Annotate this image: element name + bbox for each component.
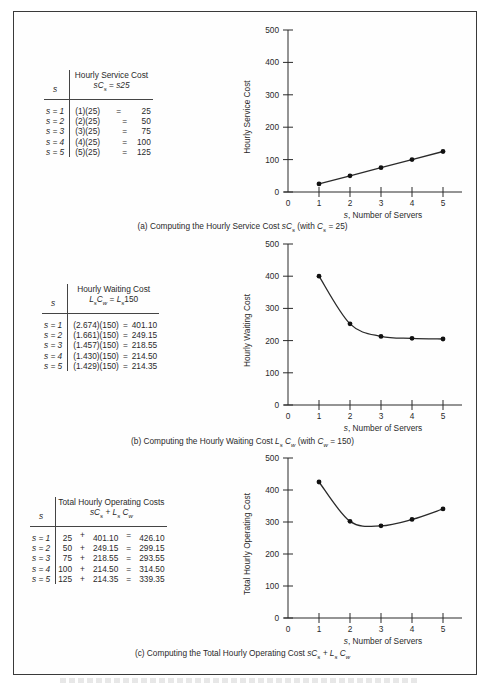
table-row: s = 250+249.15=299.15 [30, 543, 167, 553]
col-s-header: s [44, 70, 70, 100]
caption-a: (a) Computing the Hourly Service Cost sC… [0, 221, 485, 233]
table-row: s = 1(2.674)(150)=401.10 [42, 314, 159, 331]
table-row: s = 5(5)(25)=125 [44, 147, 153, 157]
cut-off-text-line [60, 678, 420, 683]
caption-b: (b) Computing the Hourly Waiting Cost Ls… [0, 436, 485, 448]
col-s-header: s [42, 284, 68, 314]
table-row: s = 4(4)(25)=100 [44, 137, 153, 147]
waiting-cost-table: s Hourly Waiting Cost LsCw = Ls150 s = 1… [42, 284, 159, 371]
total-cost-header: Total Hourly Operating Costs sCs + Ls Cw [56, 497, 167, 527]
table-row: s = 3(1.457)(150)=218.55 [42, 340, 159, 350]
table-row: s = 2(1.661)(150)=249.15 [42, 330, 159, 340]
table-row: s = 5125+214.35=339.35 [30, 574, 167, 584]
table-row: s = 2(2)(25)=50 [44, 116, 153, 126]
waiting-cost-header: Hourly Waiting Cost LsCw = Ls150 [68, 284, 159, 314]
total-cost-table: s Total Hourly Operating Costs sCs + Ls … [30, 497, 167, 584]
service-cost-header: Hourly Service Cost sCs = s25 [70, 70, 153, 100]
table-row: s = 1(1)(25)=25 [44, 100, 153, 117]
table-row: s = 375+218.55=293.55 [30, 553, 167, 563]
table-row: s = 5(1.429)(150)=214.35 [42, 361, 159, 371]
table-row: s = 125+401.10=426.10 [30, 527, 167, 544]
service-cost-table: s Hourly Service Cost sCs = s25 s = 1(1)… [44, 70, 153, 157]
caption-c: (c) Computing the Total Hourly Operating… [0, 648, 485, 660]
table-row: s = 4100+214.50=314.50 [30, 564, 167, 574]
col-s-header: s [30, 497, 56, 527]
table-row: s = 3(3)(25)=75 [44, 126, 153, 136]
table-row: s = 4(1.430)(150)=214.50 [42, 351, 159, 361]
